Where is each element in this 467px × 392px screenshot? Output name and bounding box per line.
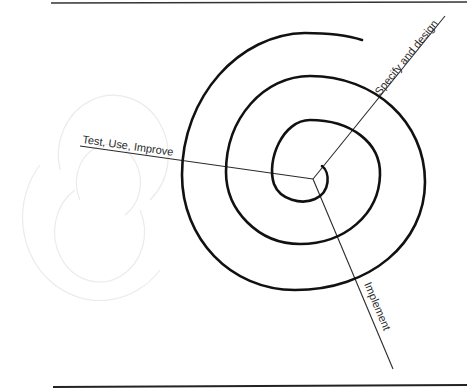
label-test-use-improve: Test, Use, Improve <box>82 133 174 158</box>
axis-test <box>80 146 313 179</box>
spiral-diagram: Specify and design Test, Use, Improve Im… <box>0 0 467 392</box>
axis-implement <box>313 179 393 369</box>
bottom-rule <box>53 385 467 387</box>
label-specify-and-design: Specify and design <box>372 17 440 97</box>
ghost-spiral <box>23 95 169 300</box>
top-rule <box>51 2 467 3</box>
